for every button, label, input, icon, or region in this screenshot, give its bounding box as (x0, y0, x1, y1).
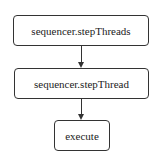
node-label: execute (65, 130, 99, 142)
edge-stepthreads-to-stepthread (81, 46, 82, 63)
node-execute: execute (54, 120, 110, 151)
node-label: sequencer.stepThreads (31, 25, 130, 37)
node-sequencer-stepthreads: sequencer.stepThreads (13, 15, 149, 46)
node-label: sequencer.stepThread (34, 78, 129, 90)
node-sequencer-stepthread: sequencer.stepThread (14, 68, 149, 99)
edge-stepthread-to-execute (81, 99, 82, 115)
